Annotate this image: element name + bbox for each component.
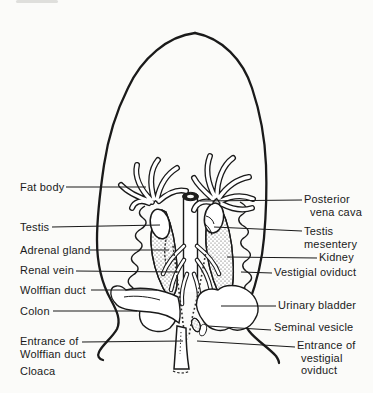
label-cloaca: Cloaca	[20, 365, 55, 378]
label-kidney: Kidney	[319, 251, 354, 264]
label-entrance-wolffian-line1: Entrance of	[20, 335, 78, 348]
label-testis: Testis	[20, 221, 49, 234]
label-vestigial-oviduct: Vestigial oviduct	[274, 266, 356, 279]
cloaca-shape	[173, 326, 190, 373]
label-entrance-vestigial-line3: oviduct	[301, 364, 337, 377]
label-entrance-vestigial-line1: Entrance of	[297, 339, 355, 352]
label-entrance-wolffian-line2: Wolffian duct	[20, 348, 86, 361]
label-fat-body: Fat body	[20, 181, 64, 194]
label-posterior-vena-cava-line2: vena cava	[310, 206, 362, 219]
label-testis-mesentery-line1: Testis	[304, 225, 333, 238]
label-testis-mesentery-line2: mesentery	[304, 238, 357, 251]
label-posterior-vena-cava-line1: Posterior	[304, 193, 350, 206]
label-renal-vein: Renal vein	[20, 264, 74, 277]
label-colon: Colon	[20, 305, 50, 318]
label-wolffian-duct: Wolffian duct	[20, 284, 86, 297]
label-seminal-vesicle: Seminal vesicle	[274, 321, 353, 334]
label-urinary-bladder: Urinary bladder	[278, 299, 356, 312]
label-adrenal-gland: Adrenal gland	[20, 244, 91, 257]
diagram-page: Fat body Testis Adrenal gland Renal vein…	[0, 0, 373, 393]
